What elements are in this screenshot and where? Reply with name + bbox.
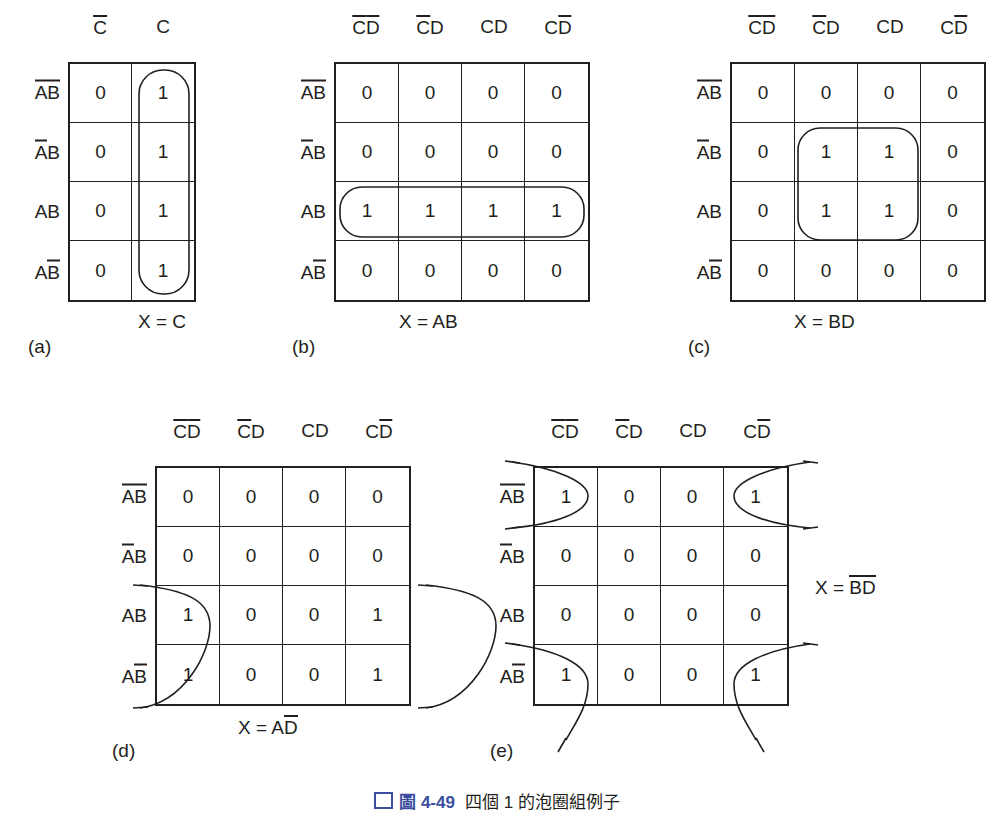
- kmap-b-cell-r3c0: 0: [336, 241, 399, 300]
- kmap-d-cell-r2c2: 0: [283, 586, 346, 645]
- kmap-d-row-header-0: AB: [97, 485, 147, 508]
- kmap-a-row-header-3: AB: [10, 261, 60, 284]
- kmap-d-cell-r1c1: 0: [220, 527, 283, 586]
- kmap-e-cell-r2c1: 0: [598, 586, 661, 645]
- kmap-c-grid: 0 0 0 0 0 1 1 0 0 1 1 0 0 0 0 0: [730, 62, 986, 302]
- kmap-b-grid: 0 0 0 0 0 0 0 0 1 1 1 1 0 0 0 0: [334, 62, 590, 302]
- kmap-c-col-header-2: CD: [876, 16, 903, 38]
- kmap-c-result: X = BD: [794, 311, 855, 333]
- kmap-e-row-header-3: AB: [475, 665, 525, 688]
- kmap-a-part-label: (a): [28, 336, 51, 358]
- kmap-e-row-header-2: AB: [475, 605, 525, 627]
- kmap-e-cell-r1c3: 0: [724, 527, 787, 586]
- kmap-e-result-prefix: X =: [815, 577, 849, 598]
- kmap-d-result-bar: D: [284, 716, 298, 739]
- kmap-d-col-header-1: CD: [237, 420, 264, 443]
- kmap-d-cell-r3c2: 0: [283, 645, 346, 704]
- kmap-b-cell-r0c1: 0: [399, 64, 462, 123]
- kmap-b-col-header-3: CD: [544, 16, 571, 39]
- kmap-d-cell-r1c3: 0: [346, 527, 409, 586]
- kmap-a-result: X = C: [138, 311, 186, 333]
- kmap-e-cell-r2c2: 0: [661, 586, 724, 645]
- kmap-c-cell-r2c0: 0: [732, 182, 795, 241]
- kmap-b-cell-r1c2: 0: [462, 123, 525, 182]
- figure-caption: 圖 4-49四個 1 的泡圈組例子: [0, 788, 994, 813]
- kmap-b-cell-r0c3: 0: [525, 64, 588, 123]
- kmap-d-row-header-1: AB: [97, 545, 147, 568]
- kmap-e-result-bar-d: D: [862, 576, 876, 599]
- kmap-b-row-header-1: AB: [276, 141, 326, 164]
- kmap-e-cell-r2c3: 0: [724, 586, 787, 645]
- kmap-e-cell-r1c2: 0: [661, 527, 724, 586]
- kmap-d-row-header-3: AB: [97, 665, 147, 688]
- kmap-b-row-header-0: AB: [276, 81, 326, 104]
- kmap-c-cell-r3c0: 0: [732, 241, 795, 300]
- kmap-a-row-header-2: AB: [10, 201, 60, 223]
- kmap-b-cell-r3c1: 0: [399, 241, 462, 300]
- kmap-b-cell-r3c2: 0: [462, 241, 525, 300]
- kmap-e-cell-r0c2: 0: [661, 468, 724, 527]
- kmap-c-cell-r3c2: 0: [858, 241, 921, 300]
- kmap-b-cell-r0c0: 0: [336, 64, 399, 123]
- kmap-b-cell-r2c3: 1: [525, 182, 588, 241]
- kmap-e-cell-r3c3: 1: [724, 645, 787, 704]
- kmap-a-cell-r1c0: 0: [70, 123, 132, 182]
- kmap-b-cell-r2c2: 1: [462, 182, 525, 241]
- kmap-c-cell-r0c1: 0: [795, 64, 858, 123]
- kmap-b-part-label: (b): [292, 336, 315, 358]
- kmap-c-cell-r0c2: 0: [858, 64, 921, 123]
- kmap-d-part-label: (d): [112, 740, 135, 762]
- kmap-e-cell-r0c1: 0: [598, 468, 661, 527]
- kmap-e-row-header-1: AB: [475, 545, 525, 568]
- kmap-c-row-header-2: AB: [672, 201, 722, 223]
- kmap-b-cell-r1c3: 0: [525, 123, 588, 182]
- kmap-c-cell-r1c0: 0: [732, 123, 795, 182]
- kmap-c-cell-r0c3: 0: [921, 64, 984, 123]
- kmap-e-cell-r3c0: 1: [535, 645, 598, 704]
- kmap-b-cell-r0c2: 0: [462, 64, 525, 123]
- kmap-b-cell-r2c0: 1: [336, 182, 399, 241]
- kmap-a-cell-r3c0: 0: [70, 241, 132, 300]
- kmap-c-cell-r1c2: 1: [858, 123, 921, 182]
- kmap-e-part-label: (e): [490, 740, 513, 762]
- kmap-e-col-header-1: CD: [615, 420, 642, 443]
- kmap-c-row-header-3: AB: [672, 261, 722, 284]
- kmap-d-cell-r0c1: 0: [220, 468, 283, 527]
- kmap-d-cell-r3c1: 0: [220, 645, 283, 704]
- kmap-a-grid: 0 1 0 1 0 1 0 1: [68, 62, 196, 302]
- kmap-e-col-header-3: CD: [743, 420, 770, 443]
- kmap-a-cell-r0c0: 0: [70, 64, 132, 123]
- figure-number: 圖 4-49: [399, 793, 455, 812]
- kmap-e-col-header-2: CD: [679, 420, 706, 442]
- kmap-c-col-header-3: CD: [940, 16, 967, 39]
- kmap-d-result-prefix: X = A: [238, 717, 284, 738]
- figure-caption-text: 四個 1 的泡圈組例子: [465, 793, 620, 812]
- kmap-c-cell-r0c0: 0: [732, 64, 795, 123]
- kmap-b-row-header-2: AB: [276, 201, 326, 223]
- kmap-e-cell-r1c0: 0: [535, 527, 598, 586]
- kmap-a-cell-r3c1: 1: [132, 241, 194, 300]
- kmap-c-col-header-0: CD: [748, 16, 775, 39]
- kmap-d-cell-r3c3: 1: [346, 645, 409, 704]
- kmap-c-cell-r2c2: 1: [858, 182, 921, 241]
- kmap-b-col-header-2: CD: [480, 16, 507, 38]
- kmap-a-cell-r1c1: 1: [132, 123, 194, 182]
- kmap-d-grid: 0 0 0 0 0 0 0 0 1 0 0 1 1 0 0 1: [155, 466, 411, 706]
- kmap-a-cell-r0c1: 1: [132, 64, 194, 123]
- kmap-d-result: X = AD: [238, 716, 298, 739]
- kmap-d-col-header-2: CD: [301, 420, 328, 442]
- kmap-d-cell-r0c0: 0: [157, 468, 220, 527]
- kmap-e-result: X = BD: [815, 576, 876, 599]
- kmap-e-cell-r3c2: 0: [661, 645, 724, 704]
- kmap-d-col-header-3: CD: [365, 420, 392, 443]
- kmap-c-cell-r2c1: 1: [795, 182, 858, 241]
- kmap-b-col-header-1: CD: [416, 16, 443, 39]
- kmap-d-cell-r0c2: 0: [283, 468, 346, 527]
- kmap-c-row-header-1: AB: [672, 141, 722, 164]
- kmap-b-cell-r2c1: 1: [399, 182, 462, 241]
- kmap-a-col-header-0: C: [93, 16, 107, 39]
- kmap-c-cell-r1c3: 0: [921, 123, 984, 182]
- kmap-e-grid: 1 0 0 1 0 0 0 0 0 0 0 0 1 0 0 1: [533, 466, 789, 706]
- kmap-d-cell-r2c3: 1: [346, 586, 409, 645]
- kmap-b-cell-r1c0: 0: [336, 123, 399, 182]
